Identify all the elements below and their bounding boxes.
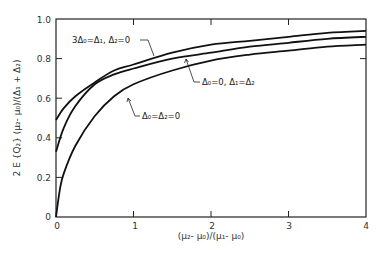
svg-text:0: 0 [54,221,60,231]
svg-text:0: 0 [45,212,51,222]
annotation-top: 3Δ₀=Δ₁, Δ₂=0 [72,35,154,56]
curve-bottom [56,45,366,217]
y-axis-label: 2 E {Q₂} (μ₂- μ₀)/(Δ₁ + Δ₂) [12,60,22,177]
curve-middle [56,37,366,152]
svg-text:0.6: 0.6 [37,94,52,104]
svg-text:Δ₀=0, Δ₁=Δ₂: Δ₀=0, Δ₁=Δ₂ [202,77,255,87]
svg-text:Δ₀=Δ₂=0: Δ₀=Δ₂=0 [142,111,180,121]
svg-text:3Δ₀=Δ₁, Δ₂=0: 3Δ₀=Δ₁, Δ₂=0 [72,35,130,45]
annotation-bottom: Δ₀=Δ₂=0 [127,98,180,121]
x-axis-label: (μ₂- μ₀)/(μ₁- μ₀) [178,231,245,241]
svg-text:3: 3 [286,221,292,231]
svg-text:1: 1 [132,221,138,231]
svg-text:0.4: 0.4 [37,133,52,143]
plot-frame [56,19,366,217]
curves [56,31,366,217]
annotation-middle: Δ₀=0, Δ₁=Δ₂ [185,59,255,87]
svg-text:4: 4 [363,221,369,231]
x-tick-labels: 0 1 2 3 4 [54,221,369,231]
svg-text:0.8: 0.8 [37,54,52,64]
svg-text:0.2: 0.2 [37,173,51,183]
y-tick-labels: 0 0.2 0.4 0.6 0.8 1.0 [37,15,52,223]
svg-text:2: 2 [209,221,215,231]
chart: 0 0.2 0.4 0.6 0.8 1.0 0 1 2 3 4 (μ₂- μ₀)… [0,0,384,253]
svg-text:1.0: 1.0 [37,15,52,25]
